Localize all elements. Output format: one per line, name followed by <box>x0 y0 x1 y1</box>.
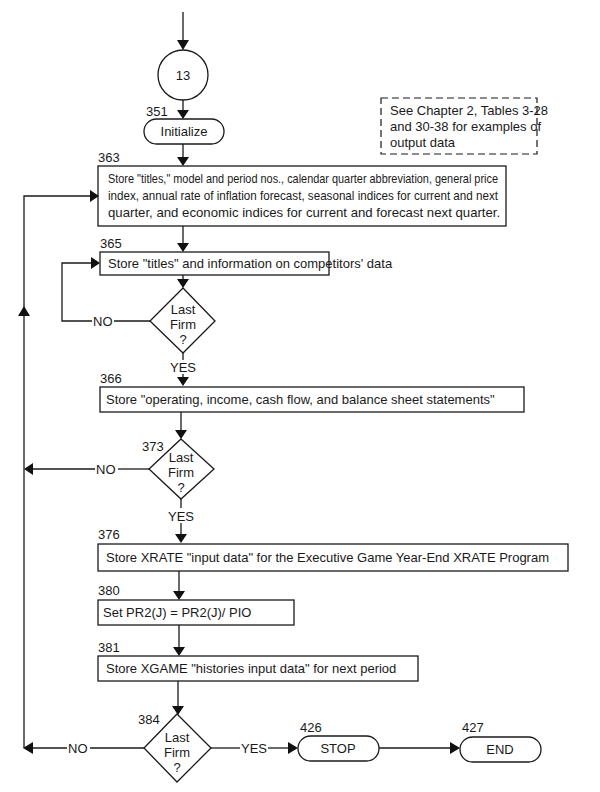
step-line: Store "titles," model and period nos., c… <box>108 171 498 186</box>
step-number: 384 <box>138 712 160 727</box>
step-366-store-statements: 366 Store "operating, income, cash flow,… <box>100 371 524 412</box>
yes-label: YES <box>168 509 194 524</box>
loop-line <box>62 263 94 321</box>
decision-line: ? <box>177 480 184 495</box>
arrowhead-down <box>177 110 189 119</box>
step-number: 380 <box>98 583 120 598</box>
note-line: See Chapter 2, Tables 3-28 <box>390 103 548 118</box>
decision-last-firm-373: 373 Last Firm ? <box>142 439 214 499</box>
step-label: Store "titles" and information on compet… <box>108 256 393 271</box>
step-380-set-pr2: 380 Set PR2(J) = PR2(J)/ PIO <box>98 583 294 625</box>
decision-line: Firm <box>168 465 194 480</box>
arrowhead-up <box>18 306 30 316</box>
step-line: quarter, and economic indices for curren… <box>108 205 500 220</box>
arrowhead-down <box>173 591 185 600</box>
arrowhead-down <box>175 430 187 439</box>
no-label: NO <box>93 314 113 329</box>
step-376-store-xrate: 376 Store XRATE "input data" for the Exe… <box>98 527 568 571</box>
arrowhead-right <box>288 742 298 754</box>
step-number: 363 <box>98 150 120 165</box>
step-label: Store XRATE "input data" for the Executi… <box>106 550 549 565</box>
arrowhead-down <box>177 157 189 166</box>
decision-last-firm-1: Last Firm ? <box>150 288 215 353</box>
step-label: Store "operating, income, cash flow, and… <box>106 392 495 407</box>
note-line: and 30-38 for examples of <box>390 119 541 134</box>
decision-last-firm-384: 384 Last Firm ? <box>138 712 211 782</box>
feedback-line <box>24 196 92 748</box>
note-line: output data <box>390 135 456 150</box>
arrowhead-down <box>177 279 189 288</box>
connector-13: 13 <box>158 50 208 100</box>
note-box: See Chapter 2, Tables 3-28 and 30-38 for… <box>381 98 548 154</box>
no-label: NO <box>96 462 116 477</box>
decision-line: Firm <box>170 317 196 332</box>
step-label: STOP <box>320 741 355 756</box>
step-number: 426 <box>300 720 322 735</box>
step-number: 381 <box>98 640 120 655</box>
step-label: Initialize <box>161 124 208 139</box>
arrowhead-down <box>177 377 189 386</box>
arrowhead-left <box>24 463 33 475</box>
step-label: Set PR2(J) = PR2(J)/ PIO <box>103 605 251 620</box>
step-number: 351 <box>146 104 168 119</box>
step-number: 373 <box>142 439 164 454</box>
step-number: 427 <box>462 720 484 735</box>
decision-line: Last <box>169 450 194 465</box>
step-label: END <box>486 742 513 757</box>
step-number: 376 <box>98 527 120 542</box>
arrowhead-right <box>450 742 460 754</box>
step-number: 365 <box>100 236 122 251</box>
decision-line: Firm <box>164 745 190 760</box>
terminal-426-stop: 426 STOP <box>298 720 379 761</box>
decision-line: Last <box>171 302 196 317</box>
connector-label: 13 <box>176 68 190 83</box>
arrowhead-down <box>175 534 187 543</box>
arrowhead-down <box>177 243 189 252</box>
terminal-427-end: 427 END <box>460 720 541 762</box>
step-line: index, annual rate of inflation forecast… <box>108 188 498 203</box>
decision-line: ? <box>179 332 186 347</box>
arrowhead-down <box>177 40 189 50</box>
no-label: NO <box>68 741 88 756</box>
arrowhead-down <box>172 706 184 715</box>
decision-line: Last <box>165 730 190 745</box>
arrowhead-right <box>91 257 100 269</box>
yes-label: YES <box>170 360 196 375</box>
step-381-store-xgame: 381 Store XGAME "histories input data" f… <box>98 640 418 681</box>
step-number: 366 <box>100 371 122 386</box>
step-label: Store XGAME "histories input data" for n… <box>106 661 396 676</box>
step-365-store-competitors: 365 Store "titles" and information on co… <box>100 236 393 275</box>
decision-line: ? <box>173 760 180 775</box>
yes-label: YES <box>241 741 267 756</box>
flowchart: 13 351 Initialize See Chapter 2, Tables … <box>0 0 600 792</box>
step-363-store-titles: 363 Store "titles," model and period nos… <box>98 150 506 226</box>
arrowhead-down <box>173 647 185 656</box>
